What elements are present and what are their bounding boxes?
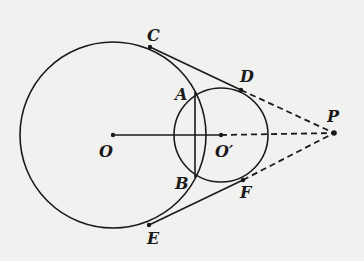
label-f: F xyxy=(239,183,253,202)
segment-oprime-p xyxy=(221,133,334,135)
point-o xyxy=(111,133,115,137)
point-c xyxy=(148,45,152,49)
label-d: D xyxy=(239,67,254,86)
label-o: O xyxy=(99,142,113,161)
tangent-d-p xyxy=(241,90,334,133)
label-e: E xyxy=(146,229,160,248)
label-p: P xyxy=(326,107,340,126)
label-a: A xyxy=(173,85,187,104)
label-c: C xyxy=(147,26,160,45)
geometry-diagram: C D A P O O′ B F E xyxy=(0,0,364,261)
label-o-prime: O′ xyxy=(215,142,234,161)
point-p xyxy=(331,130,337,136)
tangent-e-f xyxy=(149,180,243,225)
tangent-f-p xyxy=(243,133,334,180)
label-b: B xyxy=(174,174,189,193)
point-o-prime xyxy=(219,133,223,137)
point-f xyxy=(241,178,245,182)
point-e xyxy=(147,223,151,227)
tangent-c-d xyxy=(150,47,241,90)
point-d xyxy=(239,88,243,92)
